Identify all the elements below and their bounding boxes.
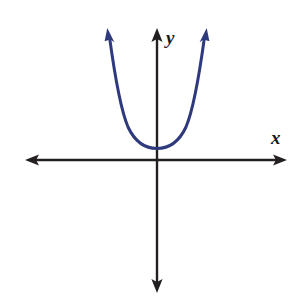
- parabola-graph-figure: y x: [0, 0, 297, 305]
- y-axis-label: y: [166, 28, 174, 47]
- coordinate-plane-svg: [0, 0, 297, 305]
- x-axis-label: x: [271, 128, 281, 147]
